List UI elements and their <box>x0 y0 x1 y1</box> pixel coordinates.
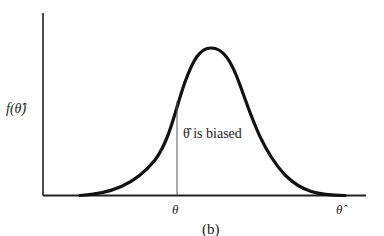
figure-caption: (b) <box>202 221 220 236</box>
biased-annotation: θ̂ is biased <box>183 126 242 141</box>
true-parameter-label: θ <box>172 202 179 217</box>
y-axis-label: f(θ̂) <box>6 101 27 117</box>
biased-estimator-diagram: f(θ̂) θ̂ is biased θ θ̂ (b) <box>0 0 384 236</box>
x-axis-label: θ̂ <box>336 202 347 217</box>
density-curve <box>80 48 345 196</box>
